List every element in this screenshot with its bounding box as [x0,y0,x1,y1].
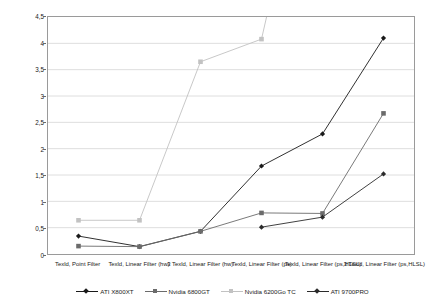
data-point-marker [259,225,264,230]
legend-label: Nvidia 6800GT [169,288,210,295]
data-point-marker [198,229,203,234]
x-tick-label: 3 Texld, Linear Filter (ps,HLSL) [341,261,427,268]
y-tick-mark [43,255,46,256]
y-tick-mark [43,228,46,229]
data-point-marker [259,211,264,216]
y-tick-label: 2,5 [4,119,44,126]
legend-swatch [145,288,167,295]
data-point-marker [259,37,264,42]
y-tick-label: 1,5 [4,172,44,179]
y-tick-mark [43,16,46,17]
y-tick-label: 0 [4,252,44,259]
data-point-marker [76,234,81,239]
series-line [79,38,384,247]
y-axis-ticks: 00,511,522,533,544,5 [0,0,44,271]
y-tick-label: 4 [4,39,44,46]
chart-legend: ATI X800XTNvidia 6800GTNvidia 6200Go TCA… [0,284,445,298]
line-chart: Time (in sec) for 1500 Quads (512x512) 0… [0,0,445,304]
y-tick-mark [43,149,46,150]
legend-square-icon [153,289,157,293]
legend-swatch [221,288,243,295]
legend-diamond-icon [314,288,320,294]
y-tick-label: 1 [4,198,44,205]
data-point-marker [137,218,142,223]
legend-swatch [307,288,329,295]
y-tick-mark [43,96,46,97]
legend-item[interactable]: Nvidia 6200Go TC [221,288,296,295]
legend-label: ATI X800XT [100,288,133,295]
y-tick-mark [43,69,46,70]
data-point-marker [381,35,386,40]
series-line-offchart [262,17,268,39]
data-point-marker [137,244,142,249]
plot-area [47,16,415,255]
y-tick-mark [43,202,46,203]
data-point-marker [76,218,81,223]
data-point-marker [76,244,81,249]
legend-label: Nvidia 6200Go TC [245,288,296,295]
series-line [79,113,384,246]
series-lines [48,17,414,254]
data-point-marker [320,131,325,136]
legend-diamond-icon [83,288,89,294]
legend-square-icon [229,289,233,293]
data-point-marker [198,59,203,64]
y-tick-mark [43,175,46,176]
y-tick-label: 3 [4,92,44,99]
legend-item[interactable]: ATI 9700PRO [307,288,369,295]
y-tick-label: 0,5 [4,225,44,232]
data-point-marker [381,111,386,116]
y-tick-label: 4,5 [4,13,44,20]
y-tick-label: 2 [4,145,44,152]
y-tick-mark [43,122,46,123]
legend-label: ATI 9700PRO [331,288,369,295]
y-tick-label: 3,5 [4,66,44,73]
series-line [79,39,262,220]
y-tick-mark [43,43,46,44]
legend-item[interactable]: Nvidia 6800GT [145,288,210,295]
legend-item[interactable]: ATI X800XT [76,288,133,295]
legend-swatch [76,288,98,295]
